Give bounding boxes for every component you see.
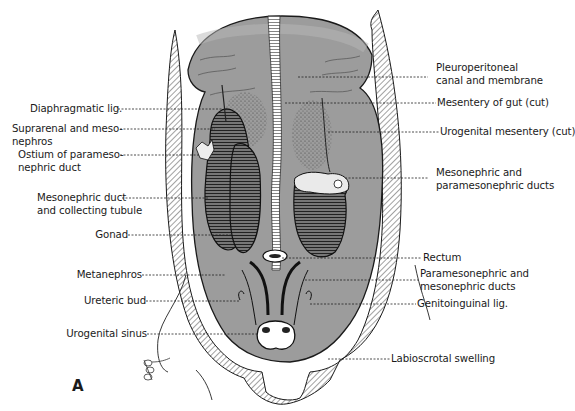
- label-urogenital-sinus: Urogenital sinus: [40, 328, 147, 341]
- label-labioscrotal-swelling: Labioscrotal swelling: [391, 353, 495, 366]
- label-line: Mesonephric and: [436, 167, 554, 180]
- label-paramesonephric-mesonephric-ducts: Paramesonephric and mesonephric ducts: [420, 268, 529, 293]
- label-genitoinguinal-lig: Genitoinguinal lig.: [417, 298, 508, 311]
- label-gonad: Gonad: [60, 229, 128, 242]
- label-line: Ostium of parameso-: [18, 149, 124, 162]
- label-mesonephric-duct-collecting-tubule: Mesonephric duct and collecting tubule: [37, 192, 142, 217]
- label-line: and collecting tubule: [37, 205, 142, 218]
- label-line: Pleuroperitoneal: [436, 62, 543, 75]
- rectum: [263, 250, 287, 262]
- label-ureteric-bud: Ureteric bud: [50, 295, 146, 308]
- label-ostium-paramesonephric-duct: Ostium of parameso- nephric duct: [18, 149, 124, 174]
- label-line: paramesonephric ducts: [436, 180, 554, 193]
- label-mesentery-of-gut: Mesentery of gut (cut): [437, 97, 549, 110]
- label-line: Paramesonephric and: [420, 268, 529, 281]
- illustrator-signature: [144, 358, 170, 380]
- label-urogenital-mesentery: Urogenital mesentery (cut): [440, 126, 575, 139]
- panel-letter: A: [72, 377, 84, 395]
- label-metanephros: Metanephros: [50, 269, 142, 282]
- urogenital-sinus: [257, 321, 295, 349]
- label-rectum: Rectum: [423, 252, 461, 265]
- label-line: nephros: [12, 136, 123, 149]
- label-mesonephric-paramesonephric-ducts: Mesonephric and paramesonephric ducts: [436, 167, 554, 192]
- label-line: Mesonephric duct: [37, 192, 142, 205]
- label-line: canal and membrane: [436, 75, 543, 88]
- label-line: Suprarenal and meso-: [12, 123, 123, 136]
- label-suprarenal-mesonephros: Suprarenal and meso- nephros: [12, 123, 123, 148]
- label-line: mesonephric ducts: [420, 281, 529, 294]
- label-pleuroperitoneal-canal: Pleuroperitoneal canal and membrane: [436, 62, 543, 87]
- label-diaphragmatic-lig: Diaphragmatic lig.: [30, 103, 118, 116]
- label-line: nephric duct: [18, 162, 124, 175]
